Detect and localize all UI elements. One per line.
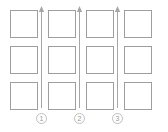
grid-cell-r2c2[interactable] <box>86 82 114 110</box>
grid-cell-r1c1[interactable] <box>48 46 76 74</box>
step-marker-3[interactable]: 3 <box>112 113 123 124</box>
grid-cell-r0c1[interactable] <box>48 10 76 38</box>
grid-cell-r1c2[interactable] <box>86 46 114 74</box>
diagram-canvas: 1 2 3 <box>0 0 168 132</box>
grid-cell-r0c3[interactable] <box>124 10 152 38</box>
grid-cell-r2c0[interactable] <box>10 82 38 110</box>
grid-cell-r2c3[interactable] <box>124 82 152 110</box>
up-arrow-3 <box>112 0 123 110</box>
step-marker-2[interactable]: 2 <box>74 113 85 124</box>
grid-cell-r2c1[interactable] <box>48 82 76 110</box>
up-arrow-1 <box>36 0 47 110</box>
grid-cell-r0c0[interactable] <box>10 10 38 38</box>
grid-cell-r1c0[interactable] <box>10 46 38 74</box>
grid-cell-r0c2[interactable] <box>86 10 114 38</box>
up-arrow-2 <box>74 0 85 110</box>
step-marker-1[interactable]: 1 <box>36 113 47 124</box>
grid-cell-r1c3[interactable] <box>124 46 152 74</box>
